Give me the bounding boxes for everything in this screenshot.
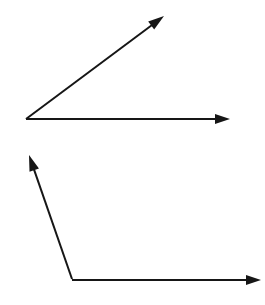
acute-diagonal-ray-line (26, 23, 154, 119)
obtuse-diagonal-ray-line (33, 166, 72, 279)
angle-diagram-svg (0, 0, 265, 305)
obtuse-horizontal-ray-arrow-icon (246, 275, 261, 285)
angle-diagram-canvas (0, 0, 265, 305)
figure-obtuse-angle (29, 155, 261, 285)
figure-acute-angle (26, 16, 230, 124)
obtuse-diagonal-ray-arrow-icon (29, 155, 39, 172)
acute-diagonal-ray-arrow-icon (148, 16, 164, 30)
acute-horizontal-ray-arrow-icon (215, 114, 230, 124)
